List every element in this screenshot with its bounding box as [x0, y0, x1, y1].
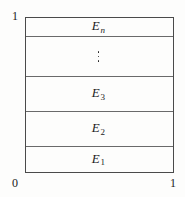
- band-e-2: E2: [26, 111, 173, 146]
- partition-diagram: 1 En E3 E2 E1: [0, 0, 185, 197]
- band-e-3: E3: [26, 76, 173, 111]
- band-label-base: E: [92, 151, 100, 166]
- axis-tick-label-bottom-left: 0: [12, 177, 18, 189]
- axis-tick-label-bottom-right: 1: [170, 177, 176, 189]
- band-label-subscript: 1: [100, 157, 105, 167]
- band-e-1: E1: [26, 146, 173, 172]
- band-label-e-n: En: [92, 19, 105, 35]
- band-label-e-1: E1: [92, 152, 105, 168]
- band-e-n: En: [26, 18, 173, 36]
- axis-tick-label-top-left: 1: [12, 10, 18, 22]
- band-label-base: E: [92, 18, 100, 33]
- band-label-e-2: E2: [92, 121, 105, 137]
- ellipsis-dot: [98, 60, 100, 62]
- partition-box: En E3 E2 E1: [25, 17, 174, 173]
- band-ellipsis: [26, 36, 173, 76]
- vertical-ellipsis-icon: [98, 51, 100, 62]
- band-label-base: E: [92, 120, 100, 135]
- ellipsis-dot: [98, 56, 100, 58]
- band-label-subscript: n: [100, 25, 105, 35]
- band-label-subscript: 2: [100, 127, 105, 137]
- band-label-e-3: E3: [92, 86, 105, 102]
- ellipsis-dot: [98, 51, 100, 53]
- band-label-subscript: 3: [100, 92, 105, 102]
- band-label-base: E: [92, 85, 100, 100]
